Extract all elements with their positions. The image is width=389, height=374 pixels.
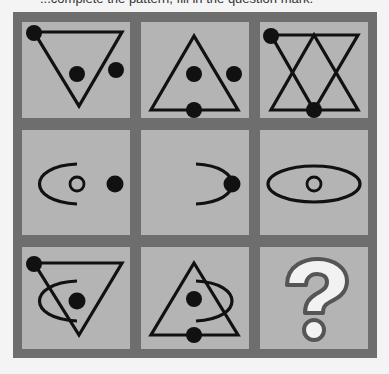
cell-r1c3[interactable]	[260, 22, 368, 118]
prompt-text: ...complete the pattern, fill in the que…	[40, 0, 313, 6]
upright-triangle-with-arc-icon	[141, 247, 249, 349]
cell-r2c3[interactable]	[260, 130, 368, 235]
cell-r1c1[interactable]	[22, 22, 130, 118]
inverted-triangle-with-arc-icon	[22, 247, 130, 349]
inverted-triangle-icon	[22, 22, 130, 118]
upright-triangle-icon	[141, 22, 249, 118]
cell-r2c1[interactable]	[22, 130, 130, 235]
question-mark-icon	[260, 247, 368, 349]
ellipse-icon	[260, 130, 368, 235]
right-arc-icon	[141, 130, 249, 235]
cell-r3c3-answer[interactable]	[260, 247, 368, 349]
cell-r3c2[interactable]	[141, 247, 249, 349]
puzzle-grid	[13, 12, 377, 358]
cell-r1c2[interactable]	[141, 22, 249, 118]
hexagram-icon	[260, 22, 368, 118]
cell-r3c1[interactable]	[22, 247, 130, 349]
cell-r2c2[interactable]	[141, 130, 249, 235]
left-arc-icon	[22, 130, 130, 235]
